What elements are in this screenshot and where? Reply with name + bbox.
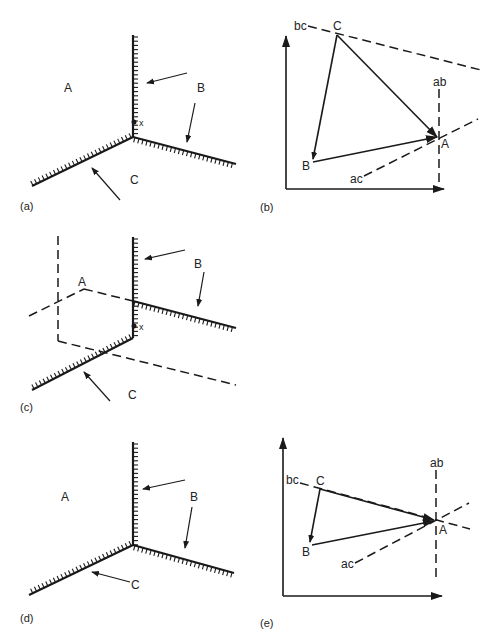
arrow-icon	[84, 372, 110, 401]
line-label-ab: ab	[430, 456, 444, 470]
phase-label-a: A	[64, 81, 72, 95]
panel-label-e: (e)	[260, 617, 273, 629]
vector-c-to-b	[313, 35, 337, 159]
vector-c-to-a	[320, 489, 434, 520]
phase-label-c: C	[130, 173, 139, 187]
panel-b: bc C ab A B ac (b)	[260, 19, 481, 213]
point-x-label: x	[139, 118, 144, 128]
panel-label-b: (b)	[260, 201, 273, 213]
vertex-label-b: B	[302, 545, 310, 559]
point-x-label: x	[139, 322, 144, 332]
panel-label-d: (d)	[20, 612, 33, 624]
phase-label-c: C	[131, 578, 140, 592]
phase-label-a: A	[78, 275, 86, 289]
hatch-left	[31, 133, 131, 185]
panel-d: A B C (d)	[20, 442, 234, 624]
vertex-label-a: A	[439, 523, 447, 537]
hatch-left	[32, 334, 131, 388]
arrow-icon	[92, 168, 120, 200]
vector-c-to-a	[337, 35, 437, 137]
figure-canvas: x A B C (a) bc C ab A B ac (b)	[0, 0, 494, 644]
point-x-dot	[132, 324, 137, 329]
arrow-icon	[92, 572, 130, 582]
arrow-icon	[147, 73, 187, 83]
hatch-left	[31, 541, 132, 593]
panel-e: bc C ab A B ac (e)	[260, 438, 470, 629]
vector-c-to-b	[310, 489, 320, 542]
panel-label-c: (c)	[20, 401, 33, 413]
boundary-right	[133, 545, 234, 573]
line-label-ac: ac	[341, 557, 354, 571]
line-label-bc: bc	[294, 19, 307, 33]
line-label-bc: bc	[286, 473, 299, 487]
point-x-dot	[132, 120, 137, 125]
phase-label-c: C	[128, 388, 137, 402]
construction-left-diag	[29, 289, 84, 316]
vertex-label-c: C	[316, 474, 325, 488]
phase-label-b: B	[194, 257, 202, 271]
vertex-label-b: B	[302, 159, 310, 173]
panel-a: x A B C (a)	[20, 35, 236, 212]
phase-label-b: B	[197, 81, 205, 95]
arrow-icon	[198, 272, 204, 306]
line-label-ab: ab	[433, 75, 447, 89]
arrow-icon	[187, 103, 195, 142]
construction-top	[84, 289, 133, 301]
line-label-ac: ac	[350, 172, 363, 186]
panel-label-a: (a)	[20, 200, 33, 212]
boundary-left	[32, 137, 133, 186]
phase-label-a: A	[61, 490, 69, 504]
arrow-icon	[143, 480, 185, 489]
panel-c: x A B C (c)	[20, 236, 236, 413]
arrow-icon	[185, 507, 192, 548]
boundary-right	[133, 137, 236, 164]
vector-b-to-a	[312, 521, 434, 545]
vertex-label-c: C	[333, 19, 342, 33]
vertex-label-a: A	[441, 137, 449, 151]
arrow-icon	[145, 250, 185, 259]
phase-label-b: B	[190, 490, 198, 504]
